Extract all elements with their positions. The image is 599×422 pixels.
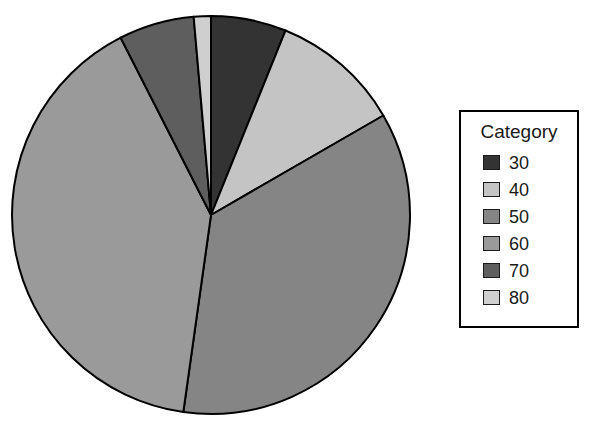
legend-item-label: 80 bbox=[509, 289, 529, 307]
legend-item-label: 30 bbox=[509, 154, 529, 172]
legend-item-list: 30 40 50 60 70 80 bbox=[461, 149, 577, 311]
pie-chart-figure: Category 30 40 50 60 70 bbox=[0, 0, 599, 422]
legend-item-70[interactable]: 70 bbox=[483, 257, 577, 284]
legend-item-label: 70 bbox=[509, 262, 529, 280]
legend-item-80[interactable]: 80 bbox=[483, 284, 577, 311]
legend-swatch-icon bbox=[483, 155, 500, 170]
legend-item-label: 50 bbox=[509, 208, 529, 226]
legend-item-40[interactable]: 40 bbox=[483, 176, 577, 203]
legend-item-label: 60 bbox=[509, 235, 529, 253]
legend-swatch-icon bbox=[483, 263, 500, 278]
legend-item-60[interactable]: 60 bbox=[483, 230, 577, 257]
legend-item-30[interactable]: 30 bbox=[483, 149, 577, 176]
legend-swatch-icon bbox=[483, 290, 500, 305]
legend-item-label: 40 bbox=[509, 181, 529, 199]
legend-swatch-icon bbox=[483, 182, 500, 197]
legend-item-50[interactable]: 50 bbox=[483, 203, 577, 230]
legend-swatch-icon bbox=[483, 209, 500, 224]
pie-slice-group bbox=[12, 16, 410, 414]
legend: Category 30 40 50 60 70 bbox=[459, 110, 579, 328]
legend-title: Category bbox=[461, 121, 577, 143]
legend-swatch-icon bbox=[483, 236, 500, 251]
